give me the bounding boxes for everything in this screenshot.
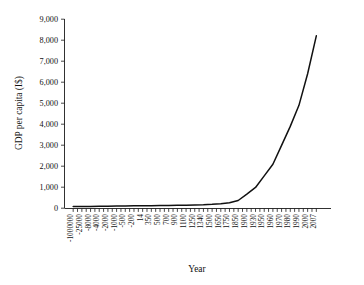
x-tick-label: 1930 xyxy=(249,214,258,229)
y-tick-label: 7,000 xyxy=(40,57,58,66)
y-tick-marks xyxy=(61,19,65,208)
x-tick-label: 2000 xyxy=(301,214,310,229)
x-tick-label: 500 xyxy=(153,214,162,225)
y-tick-label: 0 xyxy=(54,204,58,213)
x-tick-label: 1980 xyxy=(283,214,292,229)
x-tick-label: 1990 xyxy=(292,214,301,229)
x-tick-label: 1970 xyxy=(275,214,284,229)
x-tick-label: -1000 xyxy=(110,214,119,231)
x-tick-label: 1750 xyxy=(222,214,231,229)
x-tick-label: 1850 xyxy=(231,214,240,229)
x-tick-label: -8000 xyxy=(84,214,93,231)
x-tick-label: 1650 xyxy=(214,214,223,229)
x-tick-label: 1100 xyxy=(179,214,188,229)
x-tick-label: 14 xyxy=(136,214,145,222)
y-tick-labels: 9,000 8,000 7,000 6,000 5,000 4,000 3,00… xyxy=(40,15,58,213)
x-tick-label: -2000 xyxy=(101,214,110,231)
series-group xyxy=(73,36,316,207)
x-tick-label: 1960 xyxy=(266,214,275,229)
x-tick-label: -200 xyxy=(127,214,136,228)
x-tick-label: -1000000 xyxy=(66,214,75,242)
x-tick-label: 2007 xyxy=(309,214,318,229)
x-tick-label: -500 xyxy=(118,214,127,228)
x-tick-label: 700 xyxy=(162,214,171,225)
y-tick-label: 1,000 xyxy=(40,183,58,192)
x-tick-labels: -1000000-25000-8000-4000-2000-1000-500-2… xyxy=(66,214,318,242)
y-tick-label: 6,000 xyxy=(40,78,58,87)
x-tick-marks xyxy=(73,209,316,212)
y-axis-title: GDP per capita (I$) xyxy=(14,76,25,150)
y-tick-label: 9,000 xyxy=(40,15,58,24)
y-tick-label: 4,000 xyxy=(40,120,58,129)
y-tick-label: 3,000 xyxy=(40,141,58,150)
x-tick-label: 1340 xyxy=(196,214,205,229)
x-tick-label: 900 xyxy=(170,214,179,225)
y-tick-label: 5,000 xyxy=(40,99,58,108)
x-tick-label: -4000 xyxy=(92,214,101,231)
gdp-per-capita-line-chart: 9,000 8,000 7,000 6,000 5,000 4,000 3,00… xyxy=(0,0,364,285)
x-tick-label: 1500 xyxy=(205,214,214,229)
axes xyxy=(65,19,332,209)
y-tick-label: 2,000 xyxy=(40,162,58,171)
x-tick-label: -25000 xyxy=(75,214,84,235)
x-tick-label: 1950 xyxy=(257,214,266,229)
x-tick-label: 1900 xyxy=(240,214,249,229)
x-tick-label: 350 xyxy=(144,214,153,225)
x-tick-label: 1250 xyxy=(188,214,197,229)
y-tick-label: 8,000 xyxy=(40,36,58,45)
x-axis-title: Year xyxy=(188,264,206,274)
series-line-gdp-per-capita xyxy=(73,36,316,207)
chart-figure: 9,000 8,000 7,000 6,000 5,000 4,000 3,00… xyxy=(0,0,364,285)
